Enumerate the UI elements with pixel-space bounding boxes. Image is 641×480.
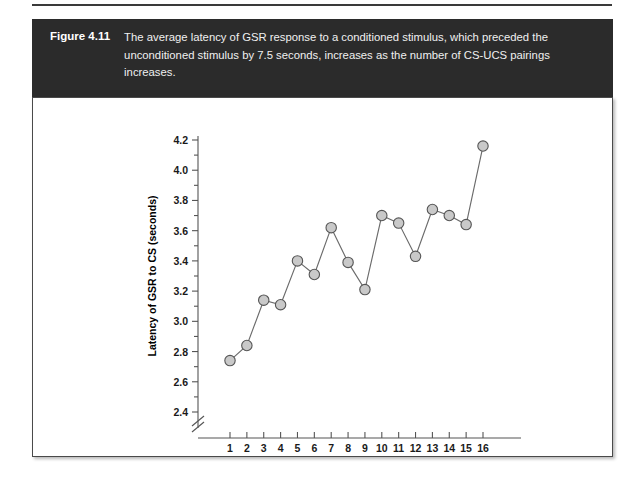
x-tick-label: 11 (393, 442, 404, 454)
x-tick-label: 4 (278, 442, 284, 454)
data-point (326, 222, 336, 232)
data-point (478, 141, 488, 151)
y-tick-label: 3.0 (173, 315, 188, 327)
data-point (275, 300, 285, 310)
data-point (461, 219, 471, 229)
data-point (360, 284, 370, 294)
y-tick-label: 3.6 (173, 225, 188, 237)
y-axis-title: Latency of GSR to CS (seconds) (146, 195, 158, 356)
x-tick-label: 9 (362, 442, 368, 454)
y-tick-label: 4.2 (173, 134, 188, 146)
data-point (393, 218, 403, 228)
data-point (225, 355, 235, 365)
x-tick-label: 10 (376, 442, 388, 454)
data-point (259, 295, 269, 305)
top-divider-rule (32, 4, 612, 6)
figure-plot-panel: 2.42.62.83.03.23.43.63.84.04.21234567891… (32, 97, 613, 457)
y-tick-label: 2.8 (173, 346, 188, 358)
data-line (230, 146, 483, 361)
x-tick-label: 14 (443, 442, 455, 454)
figure-number-label: Figure 4.11 (50, 29, 110, 42)
data-point (292, 256, 302, 266)
line-chart: 2.42.62.83.03.23.43.63.84.04.21234567891… (33, 98, 614, 458)
data-point (410, 251, 420, 261)
figure-caption-bar: Figure 4.11 The average latency of GSR r… (32, 19, 613, 97)
x-tick-label: 6 (311, 442, 317, 454)
x-tick-label: 2 (244, 442, 250, 454)
x-tick-label: 15 (460, 442, 472, 454)
x-tick-label: 1 (227, 442, 233, 454)
y-tick-label: 3.4 (173, 255, 188, 267)
chart-svg: 2.42.62.83.03.23.43.63.84.04.21234567891… (33, 98, 614, 456)
y-tick-label: 3.2 (173, 285, 188, 297)
x-tick-label: 7 (328, 442, 334, 454)
x-tick-label: 13 (427, 442, 439, 454)
y-tick-label: 4.0 (173, 164, 188, 176)
x-tick-label: 5 (295, 442, 301, 454)
figure-block: Figure 4.11 The average latency of GSR r… (32, 19, 613, 459)
data-point (444, 210, 454, 220)
y-tick-label: 3.8 (173, 194, 188, 206)
x-tick-label: 3 (261, 442, 267, 454)
data-point (377, 210, 387, 220)
figure-caption-text: The average latency of GSR response to a… (124, 29, 595, 82)
x-tick-label: 12 (410, 442, 422, 454)
data-point (343, 257, 353, 267)
data-point (427, 204, 437, 214)
x-tick-label: 8 (345, 442, 351, 454)
y-tick-label: 2.6 (173, 376, 188, 388)
data-point (242, 340, 252, 350)
y-tick-label: 2.4 (173, 406, 188, 418)
x-tick-label: 16 (477, 442, 489, 454)
data-point (309, 269, 319, 279)
